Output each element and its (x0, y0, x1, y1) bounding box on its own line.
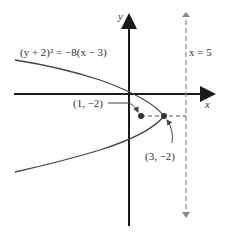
vertex-pointer-arrow (167, 120, 172, 143)
vertex-point (161, 113, 167, 119)
directrix-arrow-down-icon (182, 212, 190, 218)
x-axis-label: x (204, 98, 210, 110)
directrix-label: x = 5 (189, 46, 212, 58)
focus-pointer-arrow (108, 103, 138, 112)
vertex-label: (3, −2) (145, 150, 175, 163)
parabola-diagram: (y + 2)² = −8(x − 3) x y x = 5 (1, −2) (… (0, 0, 229, 235)
y-axis-label: y (117, 10, 123, 22)
equation-label: (y + 2)² = −8(x − 3) (20, 46, 107, 59)
focus-point (138, 113, 144, 119)
directrix-arrow-up-icon (182, 12, 190, 17)
focus-label: (1, −2) (73, 97, 103, 110)
